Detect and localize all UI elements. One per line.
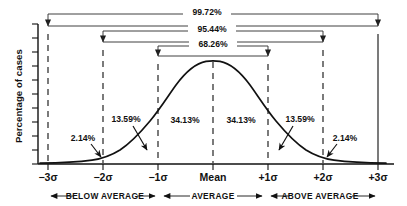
band-above-average: ABOVE AVERAGE [271,191,375,201]
bracket-68-label: 68.26% [198,39,228,49]
band-above-average-label: ABOVE AVERAGE [281,191,358,201]
x-axis-ticks [48,164,378,170]
x-axis [38,164,394,170]
band-average: AVERAGE [164,191,262,201]
y-axis-label: Percentage of cases [13,49,24,143]
figure-canvas: Percentage of cases [0,0,407,206]
y-axis: Percentage of cases [13,24,38,164]
leader-left-214 [91,144,101,157]
segment-labels: 2.14% 13.59% 34.13% 34.13% 13.59% 2.14% [71,114,358,157]
tick-label-minus2: −2σ [93,171,112,183]
leader-right-214 [327,144,337,157]
segment-label-left-214: 2.14% [71,133,96,143]
bottom-bands: BELOW AVERAGE AVERAGE ABOVE AVERAGE [51,191,375,201]
tick-label-plus2: +2σ [313,171,332,183]
tick-label-plus1: +1σ [258,171,277,183]
tick-label-minus1: −1σ [148,171,167,183]
sigma-reference-lines [48,34,378,163]
band-below-average-label: BELOW AVERAGE [66,191,145,201]
tick-label-plus3: +3σ [368,171,387,183]
bracket-68: 68.26% [158,37,268,56]
normal-distribution-figure: Percentage of cases [0,0,407,206]
x-axis-tick-labels: −3σ −2σ −1σ Mean +1σ +2σ +3σ [38,171,387,183]
y-axis-ticks [32,24,38,164]
band-average-label: AVERAGE [191,191,234,201]
tick-label-mean: Mean [200,171,227,183]
band-below-average: BELOW AVERAGE [51,191,155,201]
segment-label-right-214: 2.14% [333,133,358,143]
segment-label-left-3413: 34.13% [170,115,200,125]
tick-label-minus3: −3σ [38,171,57,183]
bracket-95-label: 95.44% [197,24,227,34]
segment-label-right-1359: 13.59% [285,114,315,124]
bracket-99-label: 99.72% [192,7,222,17]
segment-label-left-1359: 13.59% [111,114,141,124]
segment-label-right-3413: 34.13% [226,115,256,125]
